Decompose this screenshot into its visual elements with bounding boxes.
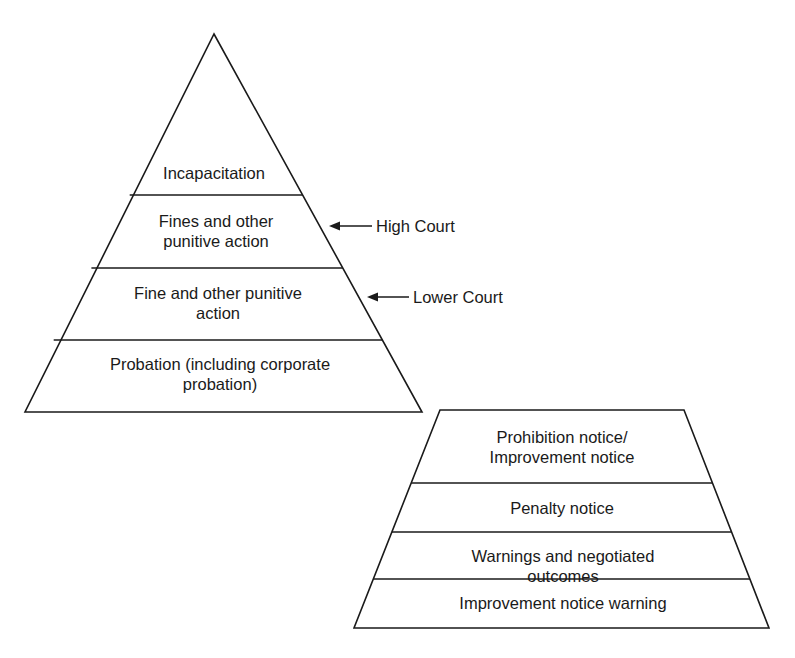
- lower-court-arrow-icon: [367, 293, 409, 302]
- upper-level-incapacitation: Incapacitation: [163, 163, 265, 183]
- upper-level-probation: Probation (including corporate probation…: [110, 354, 330, 394]
- lower-level-improvement-warning: Improvement notice warning: [459, 593, 666, 613]
- upper-level-fines-lower-court: Fine and other punitive action: [134, 283, 302, 323]
- upper-level-fines-high-court: Fines and other punitive action: [159, 211, 274, 251]
- lower-level-prohibition-notice: Prohibition notice/ Improvement notice: [490, 427, 635, 467]
- high-court-arrow-icon: [329, 222, 372, 231]
- lower-level-warnings: Warnings and negotiated outcomes: [447, 546, 679, 586]
- lower-level-penalty-notice: Penalty notice: [510, 498, 614, 518]
- high-court-label: High Court: [376, 216, 455, 236]
- lower-court-label: Lower Court: [413, 287, 503, 307]
